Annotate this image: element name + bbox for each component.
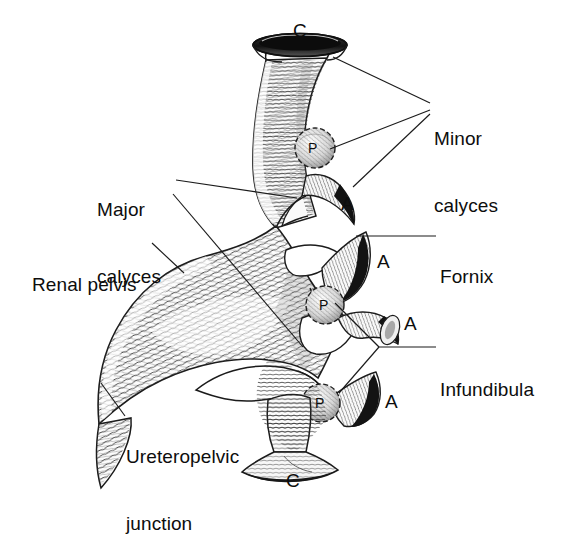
marker-fornix-upper: A (341, 193, 354, 215)
label-renal-pelvis: Renal pelvis (32, 229, 137, 319)
marker-fornix-mid-lower: A (404, 313, 417, 335)
label-minor-calyces-line2: calyces (434, 195, 498, 217)
label-minor-calyces-line1: Minor (434, 128, 498, 150)
label-major-calyces-line1: Major (97, 199, 161, 221)
label-minor-calyces: Minor calyces (434, 83, 498, 240)
marker-calyx-bottom: C (286, 470, 300, 492)
label-infundibula: Infundibula (440, 334, 534, 424)
minor-calyces-leader-1 (333, 57, 430, 103)
marker-papilla-lower: P (315, 395, 324, 411)
marker-calyx-top: C (293, 20, 307, 42)
minor-calyces-leader-2 (330, 110, 430, 149)
label-infundibula-line1: Infundibula (440, 379, 534, 401)
label-upj-line2: junction (126, 513, 239, 535)
marker-fornix-mid-upper: A (377, 251, 390, 273)
marker-papilla-upper: P (308, 140, 317, 156)
label-renal-pelvis-line1: Renal pelvis (32, 274, 137, 296)
label-fornix: Fornix (440, 221, 493, 311)
label-upj-line1: Ureteropelvic (126, 446, 239, 468)
label-fornix-line1: Fornix (440, 266, 493, 288)
minor-calyx-mid-lower-group (338, 312, 403, 347)
marker-papilla-middle: P (319, 297, 328, 313)
label-ureteropelvic-junction: Ureteropelvic junction (126, 401, 239, 538)
marker-fornix-lower: A (385, 391, 398, 413)
